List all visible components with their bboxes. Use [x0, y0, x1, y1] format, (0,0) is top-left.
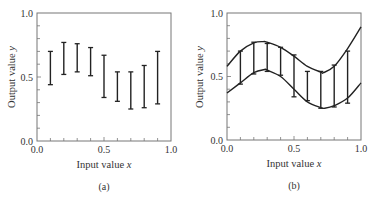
y-axis-title-a-text: Output value — [6, 51, 17, 108]
x-tick-label-a-1: 1.0 — [165, 144, 178, 155]
y-ticks-b — [227, 26, 231, 128]
x-ticks-a — [50, 137, 157, 141]
panel-label-b: (b) — [288, 180, 300, 192]
x-ticks-b — [240, 136, 347, 140]
y-tick-label-a-05: 0.5 — [21, 72, 34, 83]
y-ticks-a — [37, 26, 41, 128]
axis-variable: x — [316, 158, 322, 169]
error-bars-b — [238, 42, 350, 108]
panel-a: 1.0 0.5 0.0 0.0 0.5 1.0 Input value x Ou… — [6, 8, 177, 193]
x-tick-label-b-05: 0.5 — [288, 143, 301, 154]
x-tick-label-b-0: 0.0 — [221, 143, 234, 154]
y-tick-label-b-1: 1.0 — [211, 8, 224, 19]
x-axis-title-b: Input value x — [267, 158, 322, 169]
x-tick-label-b-1: 1.0 — [355, 143, 368, 154]
panel-b: 1.0 0.5 0.0 0.0 0.5 1.0 Input value x Ou… — [194, 8, 367, 192]
y-axis-title-a: Output value y — [6, 46, 17, 108]
panel-label-a: (a) — [98, 181, 109, 193]
x-axis-title-a: Input value x — [77, 159, 132, 170]
axis-variable: x — [126, 159, 132, 170]
x-tick-label-a-0: 0.0 — [31, 144, 44, 155]
y-axis-title-b: Output value y — [194, 46, 205, 108]
axis-variable: y — [6, 46, 17, 52]
y-tick-label-a-1: 1.0 — [21, 8, 34, 19]
figure: 1.0 0.5 0.0 0.0 0.5 1.0 Input value x Ou… — [0, 0, 369, 201]
x-axis-title-a-text: Input value — [77, 159, 127, 170]
x-tick-label-a-05: 0.5 — [98, 144, 111, 155]
y-tick-label-b-05: 0.5 — [211, 71, 224, 82]
x-axis-title-b-text: Input value — [267, 158, 317, 169]
error-bars-a — [48, 42, 160, 109]
axis-variable: y — [194, 46, 205, 52]
y-axis-title-b-text: Output value — [194, 51, 205, 108]
